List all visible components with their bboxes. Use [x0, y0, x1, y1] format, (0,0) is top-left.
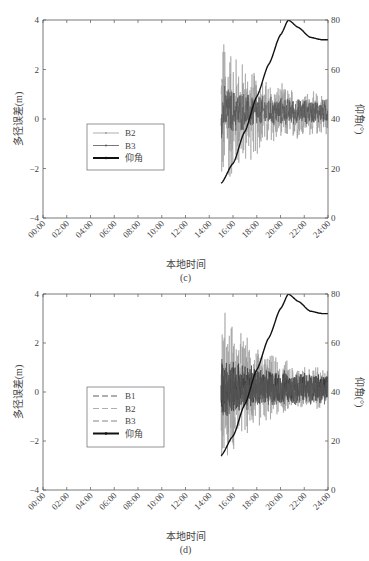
y-tick-label: 4 — [35, 289, 40, 299]
x-tick-label: 04:00 — [73, 490, 95, 512]
x-tick-label: 12:00 — [168, 490, 190, 512]
legend: B1B2B3仰角 — [87, 387, 164, 447]
y2-tick-label: 20 — [331, 436, 341, 446]
figure-canvas: 00:0002:0004:0006:0008:0010:0012:0014:00… — [0, 0, 369, 561]
x-tick-label: 04:00 — [73, 218, 95, 240]
y2-tick-label: 40 — [331, 387, 341, 397]
x-tick-label: 20:00 — [263, 490, 285, 512]
x-tick-label: 02:00 — [50, 490, 72, 512]
x-tick-label: 16:00 — [216, 218, 238, 240]
x-tick-label: 08:00 — [121, 490, 143, 512]
y-axis-title: 多径误差(m) — [12, 365, 25, 419]
legend-item-仰角: 仰角 — [125, 428, 143, 439]
y-tick-label: 2 — [35, 338, 40, 348]
y-tick-label: 4 — [35, 15, 40, 25]
x-tick-label: 06:00 — [97, 218, 119, 240]
y2-tick-label: 0 — [331, 213, 336, 223]
y-tick-label: 0 — [35, 387, 40, 397]
y-tick-label: −4 — [29, 213, 39, 223]
y2-tick-label: 40 — [331, 114, 341, 124]
x-tick-label: 10:00 — [145, 490, 167, 512]
legend-item-仰角: 仰角 — [125, 152, 143, 163]
y2-axis-title: 仰角(°) — [353, 104, 365, 135]
y2-tick-label: 80 — [331, 15, 341, 25]
y-tick-label: 0 — [35, 114, 40, 124]
y-axis-title: 多径误差(m) — [12, 92, 25, 146]
y2-tick-label: 60 — [331, 338, 341, 348]
y2-tick-label: 80 — [331, 289, 341, 299]
x-tick-label: 24:00 — [311, 218, 333, 240]
x-tick-label: 24:00 — [311, 490, 333, 512]
x-tick-label: 16:00 — [216, 490, 238, 512]
legend-item-B3: B3 — [125, 416, 136, 426]
legend-item-B1: B1 — [125, 391, 136, 401]
y-tick-label: −2 — [29, 436, 39, 446]
y2-tick-label: 20 — [331, 164, 341, 174]
panel-caption: (d) — [180, 544, 192, 556]
x-tick-label: 14:00 — [192, 218, 214, 240]
x-tick-label: 18:00 — [240, 218, 262, 240]
x-tick-label: 22:00 — [287, 218, 309, 240]
multipath-error-series — [221, 313, 328, 457]
x-tick-label: 08:00 — [121, 218, 143, 240]
chart-panel-d: 00:0002:0004:0006:0008:0010:0012:0014:00… — [12, 289, 365, 556]
chart-panel-c: 00:0002:0004:0006:0008:0010:0012:0014:00… — [12, 15, 365, 284]
legend-item-B2: B2 — [125, 404, 136, 414]
x-tick-label: 20:00 — [263, 218, 285, 240]
y2-axis-title: 仰角(°) — [353, 377, 365, 408]
x-tick-label: 10:00 — [145, 218, 167, 240]
x-tick-label: 12:00 — [168, 218, 190, 240]
x-tick-label: 22:00 — [287, 490, 309, 512]
y2-tick-label: 0 — [331, 485, 336, 495]
legend-item-B3: B3 — [125, 141, 136, 151]
multipath-error-series — [221, 44, 328, 176]
x-axis-title: 本地时间 — [166, 258, 206, 270]
x-tick-label: 02:00 — [50, 218, 72, 240]
legend-item-B2: B2 — [125, 128, 136, 138]
legend: B2B3仰角 — [87, 124, 164, 170]
y-tick-label: 2 — [35, 65, 40, 75]
x-tick-label: 06:00 — [97, 490, 119, 512]
x-tick-label: 14:00 — [192, 490, 214, 512]
x-axis-title: 本地时间 — [166, 530, 206, 542]
y-tick-label: −4 — [29, 485, 39, 495]
panel-caption: (c) — [180, 272, 191, 284]
y2-tick-label: 60 — [331, 65, 341, 75]
x-tick-label: 18:00 — [240, 490, 262, 512]
y-tick-label: −2 — [29, 164, 39, 174]
